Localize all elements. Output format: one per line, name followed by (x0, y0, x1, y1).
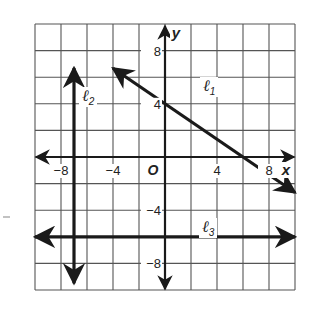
coordinate-graph: −8−44884−4−8Oxyℓ1ℓ2ℓ3 (0, 0, 314, 316)
y-tick-label: −4 (146, 203, 161, 218)
y-tick-label: −8 (146, 256, 161, 271)
x-axis-label: x (281, 161, 291, 178)
x-tick-label: 8 (265, 163, 272, 178)
y-tick-label: 4 (154, 97, 161, 112)
y-axis-label: y (171, 24, 181, 41)
origin-label: O (148, 162, 159, 178)
x-tick-label: −8 (54, 163, 69, 178)
x-tick-label: −4 (106, 163, 121, 178)
x-tick-label: 4 (213, 163, 220, 178)
y-tick-label: 8 (154, 44, 161, 59)
